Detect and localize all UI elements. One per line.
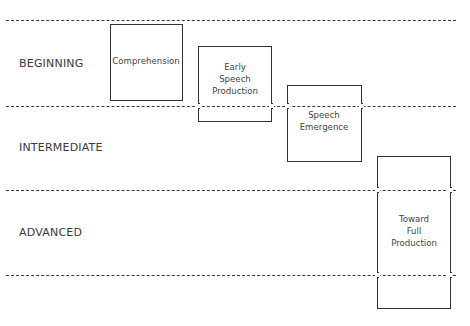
border-break [285, 104, 290, 108]
border-break [448, 188, 453, 192]
level-label-beginning: BEGINNING [19, 57, 84, 70]
stage-label-comprehension: Comprehension [112, 55, 179, 67]
border-break [375, 188, 380, 192]
border-break [375, 273, 380, 277]
stage-label-toward-full-production: Toward Full Production [391, 213, 437, 249]
border-break [196, 104, 201, 108]
level-label-intermediate: INTERMEDIATE [19, 141, 103, 154]
stage-label-speech-emergence: Speech Emergence [300, 109, 349, 133]
level-label-advanced: ADVANCED [19, 226, 82, 239]
border-break [269, 104, 274, 108]
divider-line-top [6, 20, 456, 21]
stage-label-early-speech-production: Early Speech Production [212, 61, 258, 97]
border-break [448, 273, 453, 277]
border-break [359, 104, 364, 108]
